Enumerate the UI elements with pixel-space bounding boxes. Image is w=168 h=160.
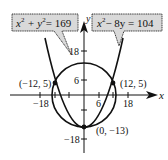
x-tick-label: 6 — [96, 98, 101, 109]
point-label: (0, −13) — [96, 125, 128, 137]
callout-parabola-equation: x2− 8y = 104 — [92, 14, 162, 46]
x-axis-label: x — [158, 89, 164, 101]
x-tick-label: 18 — [123, 98, 133, 109]
y-tick-label: 6 — [74, 75, 79, 86]
x-tick-label: −18 — [33, 98, 49, 109]
y-axis-label: y — [85, 13, 91, 24]
point-0-neg13 — [82, 125, 87, 130]
svg-text:x2− 8y = 104: x2− 8y = 104 — [96, 16, 154, 29]
point-12-5 — [111, 81, 116, 86]
point-label: (−12, 5) — [19, 78, 51, 90]
point-label: (12, 5) — [120, 78, 147, 90]
y-tick-label: 18 — [69, 46, 79, 57]
point-neg12-5 — [53, 81, 58, 86]
callout-circle-equation: x2 + y2= 169 — [12, 14, 78, 54]
intersection-diagram: −18 6 18 18 6 −18 x y (−12, 5) (12, 5) (… — [0, 0, 168, 160]
y-tick-label: −18 — [64, 134, 80, 145]
